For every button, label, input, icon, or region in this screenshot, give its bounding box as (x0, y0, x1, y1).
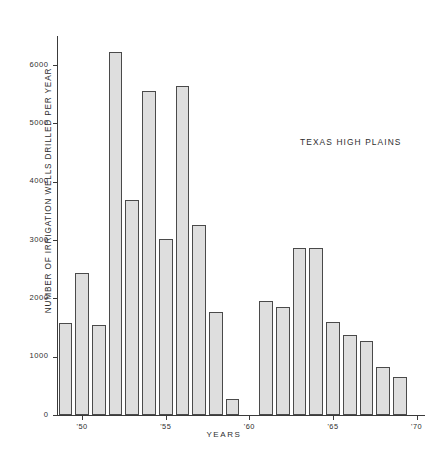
plot-area: 0100020003000400050006000 '50'55'60'65'7… (57, 36, 425, 415)
x-tick (417, 415, 418, 420)
bar (393, 377, 407, 415)
bar (142, 91, 156, 415)
bar (92, 325, 106, 415)
y-tick-label: 6000 (30, 60, 49, 69)
bar (159, 239, 173, 415)
bar (226, 399, 240, 415)
bar (209, 312, 223, 415)
y-tick: 5000 (53, 123, 58, 124)
irrigation-wells-bar-chart: NUMBER OF IRRIGATION WELLS DRILLED PER Y… (0, 0, 448, 460)
bar (276, 307, 290, 415)
y-tick: 3000 (53, 240, 58, 241)
x-axis-title: YEARS (0, 430, 448, 439)
y-tick: 6000 (53, 65, 58, 66)
x-axis-line (57, 415, 425, 416)
y-tick: 2000 (53, 298, 58, 299)
y-tick: 0 (53, 415, 58, 416)
y-tick-label: 3000 (30, 235, 49, 244)
bar (109, 52, 123, 415)
x-tick (249, 415, 250, 420)
y-tick-label: 4000 (30, 176, 49, 185)
y-tick-label: 2000 (30, 293, 49, 302)
bar (192, 225, 206, 415)
chart-annotation: TEXAS HIGH PLAINS (300, 137, 402, 147)
x-tick (166, 415, 167, 420)
bar (326, 322, 340, 415)
y-tick: 4000 (53, 182, 58, 183)
bar (376, 367, 390, 415)
bar (343, 335, 357, 415)
bar (75, 273, 89, 415)
bar (309, 248, 323, 415)
bar (293, 248, 307, 415)
bar (259, 301, 273, 415)
y-tick-label: 0 (44, 410, 49, 419)
x-tick (82, 415, 83, 420)
y-tick-label: 1000 (30, 351, 49, 360)
x-tick (333, 415, 334, 420)
bar (360, 341, 374, 415)
y-tick: 1000 (53, 357, 58, 358)
y-tick-label: 5000 (30, 118, 49, 127)
bar (125, 200, 139, 415)
bar (176, 86, 190, 415)
bar (59, 323, 73, 415)
y-axis-title: NUMBER OF IRRIGATION WELLS DRILLED PER Y… (44, 31, 53, 351)
